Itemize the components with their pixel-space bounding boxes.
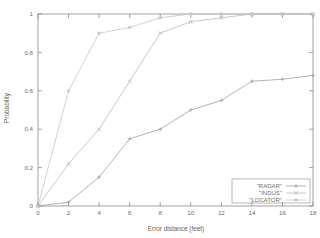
y-axis-label: Probability — [3, 92, 11, 123]
x-tick-label: 14 — [248, 209, 255, 216]
data-point-marker — [67, 89, 71, 93]
x-tick-label: 4 — [97, 209, 101, 216]
x-tick-label: 8 — [158, 209, 162, 216]
y-tick-label: 0 — [30, 202, 34, 209]
legend-label: "RADAR" — [257, 183, 282, 189]
data-point-marker — [128, 26, 132, 30]
data-point-marker — [97, 31, 101, 35]
legend-label: "INDUS" — [259, 190, 282, 196]
x-tick-label: 0 — [36, 209, 40, 216]
x-tick-label: 18 — [310, 209, 317, 216]
data-point-marker — [158, 16, 162, 20]
data-point-marker — [36, 204, 40, 208]
x-tick-label: 16 — [279, 209, 286, 216]
x-tick-label: 2 — [67, 209, 71, 216]
chart-container: 024681012141618 00.20.40.60.81 "RADAR""I… — [0, 0, 320, 238]
data-point-marker — [250, 12, 254, 16]
data-point-marker — [311, 12, 315, 16]
y-tick-label: 0.6 — [24, 87, 33, 94]
x-axis-label: Error distance (feet) — [148, 225, 204, 233]
x-tick-label: 6 — [128, 209, 132, 216]
y-tick-label: 1 — [30, 10, 34, 17]
y-tick-label: 0.2 — [24, 164, 33, 171]
data-point-marker — [294, 198, 298, 202]
x-tick-label: 10 — [187, 209, 194, 216]
data-point-marker — [281, 12, 285, 16]
y-tick-label: 0.4 — [24, 125, 33, 132]
data-point-marker — [219, 12, 223, 16]
x-tick-label: 12 — [218, 209, 225, 216]
data-point-marker — [189, 12, 193, 16]
probability-line-chart: 024681012141618 00.20.40.60.81 "RADAR""I… — [0, 0, 320, 238]
legend-label: "LOCATOR" — [249, 197, 282, 203]
y-tick-label: 0.8 — [24, 49, 33, 56]
